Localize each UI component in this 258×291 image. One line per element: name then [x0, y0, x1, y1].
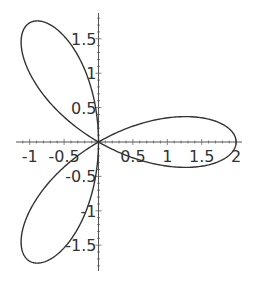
- x-tick-label: -1: [22, 147, 38, 166]
- y-tick-label: -1.5: [65, 236, 96, 255]
- y-tick-label: 1.5: [71, 30, 96, 49]
- x-tick-label: 1.5: [189, 147, 214, 166]
- axes: -1-0.50.511.52 -1.5-1-0.50.511.5: [16, 13, 242, 271]
- y-tick-label: 1: [86, 64, 96, 83]
- polar-plot: -1-0.50.511.52 -1.5-1-0.50.511.5: [0, 0, 258, 291]
- y-tick-label: 0.5: [71, 99, 96, 118]
- x-tick-label: 1: [162, 147, 172, 166]
- x-tick-label: 2: [231, 147, 241, 166]
- x-tick-label: -0.5: [48, 147, 79, 166]
- x-tick-label: 0.5: [120, 147, 145, 166]
- x-tick-labels: -1-0.50.511.52: [22, 147, 241, 166]
- y-tick-label: -0.5: [65, 167, 96, 186]
